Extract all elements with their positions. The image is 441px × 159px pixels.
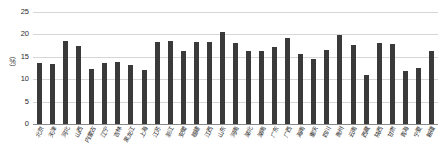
bar-slot bbox=[177, 12, 190, 124]
category-axis-labels: 北京天津河北山西内蒙古辽宁吉林黑龙江上海江苏浙江安徽福建江西山东河南湖北湖南广东… bbox=[33, 125, 438, 159]
bar[interactable] bbox=[272, 47, 277, 125]
category-label: 西藏 bbox=[360, 126, 371, 139]
category-label: 黑龙江 bbox=[122, 126, 136, 144]
label-slot: 陕西 bbox=[373, 125, 386, 159]
bar[interactable] bbox=[168, 41, 173, 124]
y-tick-label: 10 bbox=[21, 75, 29, 83]
bar-slot bbox=[333, 12, 346, 124]
bar-slot bbox=[151, 12, 164, 124]
bar-slot bbox=[347, 12, 360, 124]
label-slot: 江苏 bbox=[151, 125, 164, 159]
category-label: 福建 bbox=[191, 126, 202, 139]
label-slot: 山东 bbox=[216, 125, 229, 159]
bar-slot bbox=[425, 12, 438, 124]
bar-slot bbox=[399, 12, 412, 124]
bar-slot bbox=[307, 12, 320, 124]
bar-slot bbox=[255, 12, 268, 124]
bar-slot bbox=[203, 12, 216, 124]
label-slot: 上海 bbox=[138, 125, 151, 159]
bar[interactable] bbox=[311, 59, 316, 124]
bar[interactable] bbox=[207, 42, 212, 124]
category-label: 贵州 bbox=[334, 126, 345, 139]
category-label: 山东 bbox=[217, 126, 228, 139]
bar-slot bbox=[360, 12, 373, 124]
label-slot: 青海 bbox=[399, 125, 412, 159]
bar[interactable] bbox=[429, 51, 434, 124]
bar[interactable] bbox=[63, 41, 68, 124]
bar[interactable] bbox=[351, 45, 356, 124]
y-tick-label: 0 bbox=[25, 120, 29, 128]
label-slot: 西藏 bbox=[360, 125, 373, 159]
category-label: 江西 bbox=[204, 126, 215, 139]
category-label: 湖北 bbox=[243, 126, 254, 139]
bar[interactable] bbox=[337, 35, 342, 124]
bar[interactable] bbox=[181, 51, 186, 124]
label-slot: 贵州 bbox=[333, 125, 346, 159]
label-slot: 天津 bbox=[46, 125, 59, 159]
bar[interactable] bbox=[142, 70, 147, 124]
bar[interactable] bbox=[50, 64, 55, 124]
bar[interactable] bbox=[416, 68, 421, 124]
bar-slot bbox=[229, 12, 242, 124]
bar-chart: （%） 0510152025 北京天津河北山西内蒙古辽宁吉林黑龙江上海江苏浙江安… bbox=[0, 0, 441, 159]
category-label: 青海 bbox=[400, 126, 411, 139]
bar[interactable] bbox=[76, 46, 81, 124]
label-slot: 北京 bbox=[33, 125, 46, 159]
category-label: 重庆 bbox=[308, 126, 319, 139]
label-slot: 浙江 bbox=[164, 125, 177, 159]
bar[interactable] bbox=[233, 43, 238, 124]
bar[interactable] bbox=[364, 75, 369, 124]
bars-container bbox=[33, 12, 438, 124]
category-label: 北京 bbox=[34, 126, 45, 139]
bar-slot bbox=[85, 12, 98, 124]
bar-slot bbox=[33, 12, 46, 124]
bar[interactable] bbox=[324, 50, 329, 124]
category-label: 浙江 bbox=[164, 126, 175, 139]
label-slot: 广东 bbox=[268, 125, 281, 159]
bar-slot bbox=[412, 12, 425, 124]
label-slot: 黑龙江 bbox=[124, 125, 137, 159]
category-label: 新疆 bbox=[426, 126, 437, 139]
bar-slot bbox=[59, 12, 72, 124]
category-label: 辽宁 bbox=[99, 126, 110, 139]
bar[interactable] bbox=[377, 43, 382, 124]
bar[interactable] bbox=[403, 71, 408, 124]
category-label: 海南 bbox=[295, 126, 306, 139]
label-slot: 四川 bbox=[320, 125, 333, 159]
bar-slot bbox=[216, 12, 229, 124]
bar-slot bbox=[124, 12, 137, 124]
bar[interactable] bbox=[102, 63, 107, 124]
bar[interactable] bbox=[89, 69, 94, 124]
bar-slot bbox=[242, 12, 255, 124]
bar-slot bbox=[373, 12, 386, 124]
bar[interactable] bbox=[155, 42, 160, 124]
bar[interactable] bbox=[115, 62, 120, 124]
bar-slot bbox=[72, 12, 85, 124]
label-slot: 福建 bbox=[190, 125, 203, 159]
bar[interactable] bbox=[259, 51, 264, 124]
label-slot: 吉林 bbox=[111, 125, 124, 159]
label-slot: 河北 bbox=[59, 125, 72, 159]
bar[interactable] bbox=[285, 38, 290, 124]
bar[interactable] bbox=[37, 63, 42, 124]
bar-slot bbox=[138, 12, 151, 124]
category-label: 宁夏 bbox=[413, 126, 424, 139]
bar-slot bbox=[268, 12, 281, 124]
bar-slot bbox=[111, 12, 124, 124]
category-label: 河北 bbox=[60, 126, 71, 139]
category-label: 吉林 bbox=[112, 126, 123, 139]
bar[interactable] bbox=[298, 54, 303, 124]
label-slot: 海南 bbox=[294, 125, 307, 159]
bar-slot bbox=[320, 12, 333, 124]
bar[interactable] bbox=[128, 65, 133, 124]
bar-slot bbox=[294, 12, 307, 124]
bar-slot bbox=[98, 12, 111, 124]
y-tick-label: 20 bbox=[21, 30, 29, 38]
bar[interactable] bbox=[194, 42, 199, 124]
category-label: 安徽 bbox=[178, 126, 189, 139]
category-label: 天津 bbox=[47, 126, 58, 139]
category-label: 四川 bbox=[321, 126, 332, 139]
bar[interactable] bbox=[390, 44, 395, 124]
bar[interactable] bbox=[220, 32, 225, 124]
bar[interactable] bbox=[246, 51, 251, 124]
